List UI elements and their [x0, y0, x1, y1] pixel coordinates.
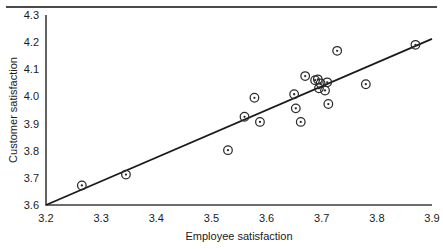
data-point	[122, 170, 131, 179]
data-point	[224, 146, 233, 155]
data-point-center	[326, 81, 328, 83]
axis-lines	[46, 15, 432, 205]
data-point-center	[227, 149, 229, 151]
scatter-plot: 3.63.73.83.94.04.14.24.3 3.23.33.43.53.6…	[0, 0, 443, 249]
data-point	[250, 93, 259, 102]
x-tick-label: 3.7	[314, 212, 329, 224]
y-tick-label: 3.6	[24, 199, 39, 211]
y-tick-label: 3.9	[24, 118, 39, 130]
regression-line	[46, 39, 432, 205]
y-axis-title: Customer satisfaction	[7, 57, 19, 163]
y-tick-label: 4.3	[24, 9, 39, 21]
x-tick-label: 3.9	[424, 212, 439, 224]
x-tick-label: 3.4	[149, 212, 164, 224]
data-point-center	[81, 184, 83, 186]
y-tick-label: 3.7	[24, 172, 39, 184]
data-point-center	[365, 83, 367, 85]
data-point	[291, 104, 300, 113]
data-point-center	[304, 75, 306, 77]
data-point-center	[253, 97, 255, 99]
y-tick-label: 4.0	[24, 90, 39, 102]
data-point-center	[300, 121, 302, 123]
data-point-center	[125, 173, 127, 175]
x-tick-label: 3.8	[369, 212, 384, 224]
x-tick-label: 3.5	[204, 212, 219, 224]
data-point	[78, 181, 87, 190]
x-axis-title: Employee satisfaction	[186, 230, 293, 242]
data-point	[362, 80, 371, 89]
data-point	[301, 72, 310, 81]
x-tick-label: 3.2	[38, 212, 53, 224]
scatter-plot-svg: 3.63.73.83.94.04.14.24.3 3.23.33.43.53.6…	[0, 0, 443, 249]
data-point-center	[243, 116, 245, 118]
data-point-group	[78, 41, 420, 190]
data-point	[256, 118, 265, 127]
x-tick-label: 3.6	[259, 212, 274, 224]
data-point	[333, 47, 342, 56]
data-point-center	[259, 121, 261, 123]
y-tick-label: 4.1	[24, 63, 39, 75]
data-point-center	[293, 93, 295, 95]
data-point-center	[295, 107, 297, 109]
data-point	[296, 118, 305, 127]
chart-figure: 3.63.73.83.94.04.14.24.3 3.23.33.43.53.6…	[0, 0, 443, 249]
data-point-center	[324, 89, 326, 91]
y-axis-tick-labels: 3.63.73.83.94.04.14.24.3	[24, 9, 39, 211]
x-tick-label: 3.3	[93, 212, 108, 224]
y-tick-label: 4.2	[24, 36, 39, 48]
x-axis-tick-labels: 3.23.33.43.53.63.73.83.9	[38, 212, 439, 224]
data-point-center	[327, 103, 329, 105]
data-point	[324, 100, 333, 109]
data-point-center	[336, 50, 338, 52]
data-point	[290, 90, 299, 99]
data-point-center	[319, 82, 321, 84]
data-point-center	[414, 44, 416, 46]
y-tick-label: 3.8	[24, 145, 39, 157]
